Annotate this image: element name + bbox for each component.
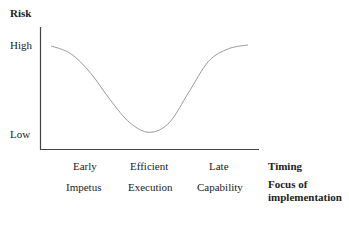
x-tick-capability: Capability: [197, 181, 243, 194]
x-tick-late: Late: [209, 160, 229, 173]
x-row-label-focus-line1: Focus of: [268, 178, 307, 191]
risk-curve: [51, 45, 248, 132]
x-tick-early: Early: [73, 160, 97, 173]
x-row-label-timing: Timing: [268, 160, 302, 173]
x-row-label-focus-line2: implementation: [268, 191, 342, 204]
x-tick-execution: Execution: [128, 181, 173, 194]
x-tick-impetus: Impetus: [66, 181, 101, 194]
x-tick-efficient: Efficient: [130, 160, 168, 173]
